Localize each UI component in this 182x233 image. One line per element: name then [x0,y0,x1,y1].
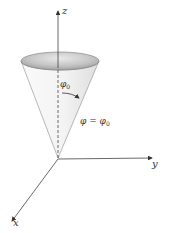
cone-equation: φ = φ0 [80,117,110,127]
equation-rhs-subscript: 0 [106,120,110,127]
z-axis-label: z [62,6,67,16]
cone-surface [21,61,99,158]
cone-diagram: z y x φ0 φ = φ0 [0,0,182,233]
angle-subscript: 0 [66,83,70,90]
cone-rim [21,52,99,70]
y-axis [58,158,152,159]
equation-operator: = [89,116,97,126]
angle-label: φ0 [60,80,70,90]
x-axis-label: x [13,218,19,228]
y-axis-label: y [152,159,158,169]
equation-lhs: φ [80,116,86,126]
x-axis [12,159,58,221]
